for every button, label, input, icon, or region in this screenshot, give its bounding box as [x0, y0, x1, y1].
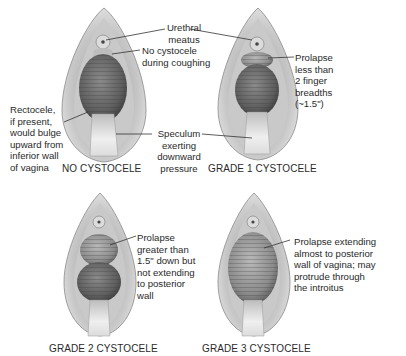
label-grade-1-prolapse: Prolapse less than 2 finger breadths (~1… — [295, 52, 333, 110]
label-grade-2-prolapse: Prolapse greater than 1.5" down but not … — [137, 232, 195, 302]
panel-grade-2-illustration — [64, 193, 136, 336]
caption-grade-1: GRADE 1 CYSTOCELE — [208, 163, 317, 175]
label-rectocele: Rectocele, if present, would bulge upwar… — [10, 104, 63, 174]
label-grade-3-prolapse: Prolapse extending almost to posterior w… — [294, 236, 376, 294]
caption-no-cystocele: NO CYSTOCELE — [62, 163, 141, 175]
label-no-cystocele-during-coughing: No cystocele during coughing — [142, 45, 210, 68]
caption-grade-2: GRADE 2 CYSTOCELE — [49, 343, 158, 355]
panel-grade-1-illustration — [218, 8, 298, 160]
panel-no-cystocele-illustration — [62, 8, 146, 162]
caption-grade-3: GRADE 3 CYSTOCELE — [202, 343, 311, 355]
label-urethral-meatus: Urethral meatus — [156, 22, 212, 45]
panel-grade-3-illustration — [218, 193, 290, 336]
label-speculum: Speculum exerting downward pressure — [152, 128, 206, 174]
